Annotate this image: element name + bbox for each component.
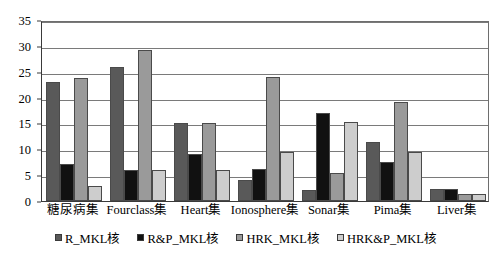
bar xyxy=(266,77,280,201)
bar xyxy=(430,189,444,201)
bar xyxy=(472,194,486,201)
bar xyxy=(252,169,266,201)
x-tick-label: Fourclass集 xyxy=(107,204,168,218)
y-tick-label: 20 xyxy=(19,92,32,105)
bar-group xyxy=(362,22,426,201)
legend-item[interactable]: HRK&P_MKL核 xyxy=(337,228,437,247)
plot-area xyxy=(41,21,489,202)
bar xyxy=(344,122,358,201)
legend-label: R&P_MKL核 xyxy=(147,228,219,247)
y-axis: 05101520253035 xyxy=(0,21,37,202)
bar-group xyxy=(426,22,489,201)
bar-group xyxy=(106,22,170,201)
bar xyxy=(316,113,330,201)
bar xyxy=(74,78,88,201)
legend-swatch-icon xyxy=(236,234,243,241)
x-tick-label: Liver集 xyxy=(437,204,477,218)
bar xyxy=(174,123,188,201)
x-tick-label: Sonar集 xyxy=(308,204,350,218)
legend-label: HRK_MKL核 xyxy=(246,228,319,247)
bar-group xyxy=(298,22,362,201)
bar xyxy=(60,164,74,201)
legend-swatch-icon xyxy=(55,234,62,241)
bar xyxy=(238,180,252,201)
bar xyxy=(330,173,344,201)
legend-item[interactable]: R_MKL核 xyxy=(55,228,120,247)
legend-item[interactable]: R&P_MKL核 xyxy=(137,228,219,247)
bar xyxy=(380,162,394,201)
bar xyxy=(188,154,202,201)
bar xyxy=(202,123,216,201)
bar xyxy=(280,152,294,201)
y-tick-label: 0 xyxy=(25,196,31,209)
x-tick-label: 糖尿病集 xyxy=(47,204,99,218)
bar xyxy=(88,186,102,202)
bar xyxy=(216,170,230,201)
y-tick-label: 30 xyxy=(19,41,32,54)
x-tick-label: Pima集 xyxy=(374,204,413,218)
legend-swatch-icon xyxy=(337,234,344,241)
bar xyxy=(458,194,472,201)
x-axis: 糖尿病集Fourclass集Heart集Ionosphere集Sonar集Pim… xyxy=(41,203,489,223)
bar xyxy=(394,102,408,201)
bars-layer xyxy=(42,22,488,201)
bar xyxy=(408,152,422,201)
legend-label: R_MKL核 xyxy=(65,228,120,247)
bar xyxy=(138,50,152,201)
y-tick-label: 35 xyxy=(19,15,32,28)
legend: R_MKL核R&P_MKL核HRK_MKL核HRK&P_MKL核 xyxy=(0,228,492,247)
y-tick-label: 5 xyxy=(25,170,31,183)
legend-label: HRK&P_MKL核 xyxy=(347,228,437,247)
bar-group xyxy=(234,22,298,201)
bar xyxy=(366,142,380,201)
bar xyxy=(302,190,316,201)
bar xyxy=(124,170,138,201)
bar xyxy=(110,67,124,201)
y-tick-label: 15 xyxy=(19,118,32,131)
bar xyxy=(152,170,166,201)
legend-swatch-icon xyxy=(137,234,144,241)
x-tick-label: Ionosphere集 xyxy=(231,204,300,218)
legend-item[interactable]: HRK_MKL核 xyxy=(236,228,319,247)
y-tick-label: 25 xyxy=(19,66,32,79)
bar-chart: 05101520253035 糖尿病集Fourclass集Heart集Ionos… xyxy=(0,0,492,260)
bar xyxy=(444,189,458,201)
x-tick-label: Heart集 xyxy=(181,204,222,218)
y-tick-label: 10 xyxy=(19,144,32,157)
bar-group xyxy=(170,22,234,201)
bar xyxy=(46,82,60,201)
bar-group xyxy=(42,22,106,201)
